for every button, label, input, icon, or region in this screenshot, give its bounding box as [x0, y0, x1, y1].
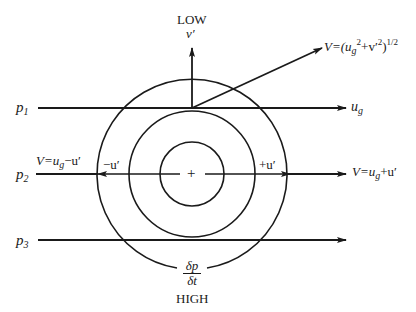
p2-label: p2	[16, 167, 29, 184]
p3-label: p3	[16, 233, 29, 250]
fraction-numerator: δp	[180, 259, 204, 273]
v-plus-label: V=ug+u′	[352, 165, 397, 181]
fraction-denominator: δt	[180, 274, 204, 288]
minus-u-label: −u′	[103, 158, 120, 171]
center-mark: +	[187, 166, 195, 181]
v-minus-label: V=ug−u′	[36, 154, 81, 170]
resultant-v-arrow	[192, 48, 322, 108]
resultant-v-label: V=(ug2+v′2)1/2	[324, 38, 398, 56]
plus-u-label: +u′	[259, 158, 276, 171]
low-label: LOW	[177, 13, 207, 26]
v-prime-label: v′	[186, 27, 195, 40]
p1-label: p1	[16, 100, 29, 117]
ug-label: ug	[351, 100, 363, 116]
pressure-tendency-fraction: δp δt	[180, 259, 204, 288]
high-label: HIGH	[176, 292, 209, 305]
